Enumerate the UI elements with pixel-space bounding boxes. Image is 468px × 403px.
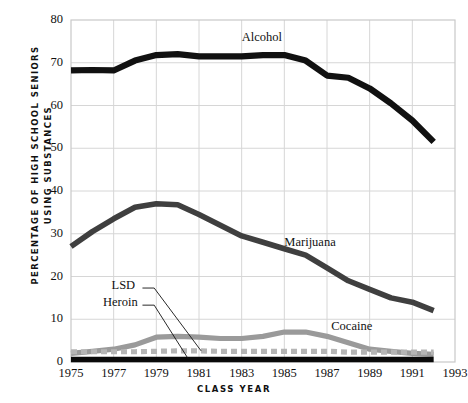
substance-use-line-chart: PERCENTAGE OF HIGH SCHOOL SENIORS USING … [0, 0, 468, 403]
annotation-alcohol: Alcohol [242, 30, 282, 45]
annotation-marijuana: Marijuana [284, 235, 335, 250]
series-line-alcohol [71, 54, 434, 142]
annotation-cocaine: Cocaine [331, 319, 372, 334]
gridlines [71, 20, 455, 362]
annotation-heroin: Heroin [103, 295, 138, 310]
annotation-lsd: LSD [112, 278, 136, 293]
plot-area [0, 0, 468, 403]
data-series [71, 54, 434, 359]
